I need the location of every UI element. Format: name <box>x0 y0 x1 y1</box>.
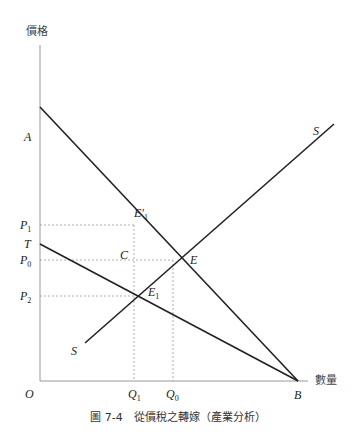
point-a-label: A <box>24 131 31 143</box>
q0-label: Q0 <box>166 388 179 403</box>
supply-bottom-label: S <box>71 345 77 357</box>
supply-curve-ss <box>85 124 334 343</box>
q1-label: Q1 <box>128 388 141 403</box>
point-e1-label: E1 <box>148 286 159 301</box>
after-tax-demand-tb <box>40 244 298 381</box>
demand-curve-ab <box>40 107 298 381</box>
y-axis-label: 價格 <box>26 26 48 37</box>
origin-label: O <box>25 388 34 400</box>
point-e1-prime-label: E′1 <box>134 207 148 222</box>
point-c-label: C <box>120 249 128 261</box>
x-axis-label: 數量 <box>315 375 337 386</box>
figure-caption: 圖 7-4 從價稅之轉嫁（產業分析） <box>0 408 356 424</box>
guide-lines <box>40 225 173 381</box>
diagram-canvas <box>0 0 356 439</box>
supply-top-label: S <box>313 125 319 137</box>
point-e-label: E <box>190 254 197 266</box>
point-t-label: T <box>24 238 31 250</box>
p0-label: P0 <box>20 254 31 269</box>
point-b-label: B <box>294 389 301 401</box>
p1-label: P1 <box>20 219 31 234</box>
p2-label: P2 <box>20 290 31 305</box>
